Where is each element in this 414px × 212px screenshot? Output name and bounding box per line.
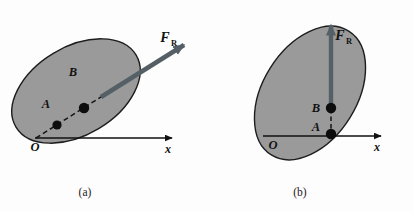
panel-b-label-force: F	[334, 28, 345, 43]
panel-a-point-a-dot	[52, 120, 61, 129]
panel-a-label-a: A	[41, 97, 50, 111]
panel-a-label-x-axis: x	[164, 142, 171, 156]
panel-a-label-force: F	[159, 30, 170, 45]
panel-a-label-force-subscript: R	[171, 38, 178, 48]
figure-canvas: B A O x F R (a) B A O x	[0, 0, 414, 212]
panel-a-label-b: B	[68, 65, 77, 79]
physics-figure: B A O x F R (a) B A O x	[0, 0, 414, 212]
panel-a-point-b-dot	[79, 103, 89, 113]
panel-a-caption: (a)	[79, 186, 92, 199]
panel-b-caption: (b)	[293, 186, 307, 199]
panel-b-group: B A O x F R (b)	[231, 6, 388, 199]
panel-b-point-a-dot	[326, 129, 336, 139]
panel-b-body-ellipse	[231, 6, 388, 180]
panel-b-label-origin: O	[268, 138, 277, 152]
panel-b-label-force-subscript: R	[346, 36, 353, 46]
panel-b-point-b-dot	[326, 103, 336, 113]
panel-b-label-x-axis: x	[373, 140, 380, 154]
panel-a-body-ellipse	[0, 17, 159, 165]
panel-a-label-origin: O	[30, 140, 39, 154]
panel-b-label-b: B	[311, 101, 320, 115]
panel-a-group: B A O x F R (a)	[0, 17, 184, 199]
panel-b-label-a: A	[311, 120, 320, 134]
